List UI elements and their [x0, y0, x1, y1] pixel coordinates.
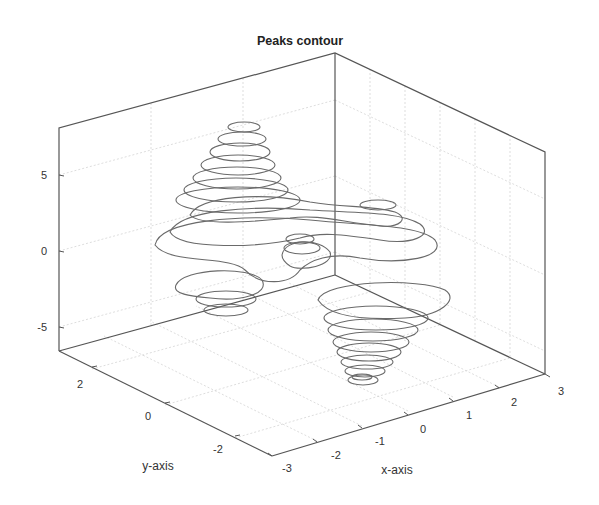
contour3-figure: Peaks contour	[0, 0, 599, 505]
z-tick-label: -5	[37, 321, 47, 333]
x-tick-label: 2	[511, 396, 517, 408]
chart-title: Peaks contour	[257, 34, 343, 48]
x-tick-label: 3	[558, 385, 564, 397]
y-tick-label: -2	[213, 443, 223, 455]
x-tick-label: -1	[375, 435, 385, 447]
x-tick-label: -2	[331, 449, 341, 461]
y-tick-label: 0	[145, 410, 151, 422]
x-tick-label: -3	[282, 462, 292, 474]
y-axis-label: y-axis	[142, 459, 173, 473]
y-tick-label: 2	[77, 378, 83, 390]
x-tick-label: 1	[466, 409, 472, 421]
figure-background	[0, 0, 599, 505]
z-tick-label: 5	[41, 169, 47, 181]
x-tick-label: 0	[420, 423, 426, 435]
z-tick-label: 0	[41, 245, 47, 257]
x-axis-label: x-axis	[381, 463, 412, 477]
